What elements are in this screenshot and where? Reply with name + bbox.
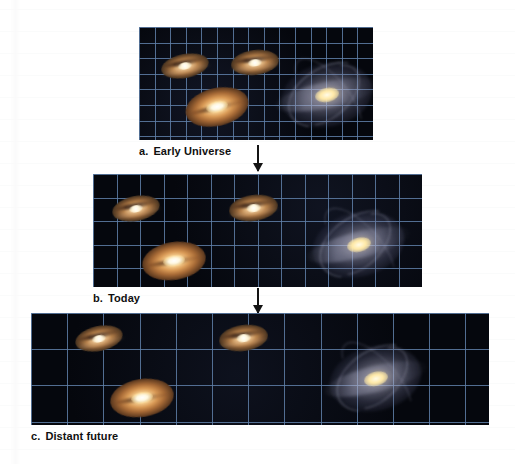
arrow-head-down-icon <box>253 163 263 172</box>
space-frame-early-universe <box>139 27 373 140</box>
panel-early-universe: a.Early Universe <box>139 27 373 162</box>
caption-text-c: Distant future <box>45 430 118 442</box>
caption-label-a: a. <box>139 145 148 157</box>
figure-canvas: a.Early Universe b.Today <box>0 0 515 464</box>
arrow-today-to-future <box>253 288 263 313</box>
caption-text-b: Today <box>108 292 140 304</box>
arrow-early-to-today <box>253 145 263 171</box>
panel-distant-future: c.Distant future <box>31 313 489 448</box>
caption-label-b: b. <box>93 292 103 304</box>
caption-distant-future: c.Distant future <box>31 430 118 442</box>
space-frame-distant-future <box>31 313 489 425</box>
caption-text-a: Early Universe <box>153 145 231 157</box>
caption-today: b.Today <box>93 292 140 304</box>
space-frame-today <box>93 174 422 287</box>
caption-label-c: c. <box>31 430 40 442</box>
caption-early-universe: a.Early Universe <box>139 145 231 157</box>
